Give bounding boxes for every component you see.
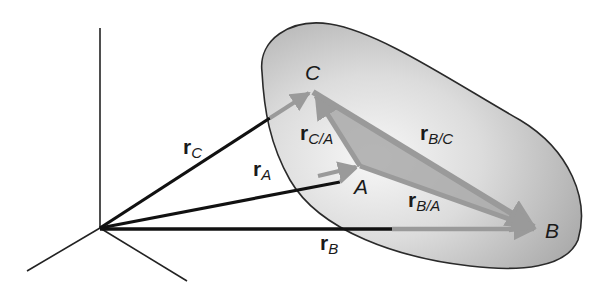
point-label-c: C <box>305 61 321 84</box>
point-label-a: A <box>352 175 368 198</box>
y-axis <box>100 228 187 281</box>
rigid-body-diagram: C A B rC rA rB rC/A rB/C rB/A <box>0 0 614 294</box>
point-label-b: B <box>545 219 559 242</box>
diagram-canvas: C A B rC rA rB rC/A rB/C rB/A <box>0 0 614 294</box>
x-axis <box>27 228 100 271</box>
label-r-a: rA <box>253 157 271 183</box>
coordinate-axes <box>27 28 187 281</box>
label-r-c: rC <box>183 135 202 161</box>
label-r-b: rB <box>320 231 338 257</box>
